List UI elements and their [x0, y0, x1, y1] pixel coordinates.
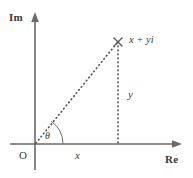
- angle-theta-label: θ: [45, 131, 50, 141]
- imaginary-axis-arrowhead: [31, 12, 39, 22]
- real-component-label: x: [75, 150, 80, 161]
- modulus-dotted-line: [36, 43, 117, 143]
- real-axis-arrowhead: [172, 140, 182, 148]
- cross-marker-icon: [114, 38, 122, 46]
- diagram-canvas: [0, 0, 193, 178]
- real-axis-label: Re: [165, 154, 178, 165]
- argand-diagram-figure: Im Re O θ x y x + yi: [0, 0, 193, 178]
- angle-arc: [51, 121, 63, 144]
- point-label: x + yi: [129, 35, 154, 46]
- imaginary-axis-label: Im: [9, 12, 23, 23]
- origin-label: O: [19, 150, 27, 161]
- imaginary-component-label: y: [128, 89, 133, 100]
